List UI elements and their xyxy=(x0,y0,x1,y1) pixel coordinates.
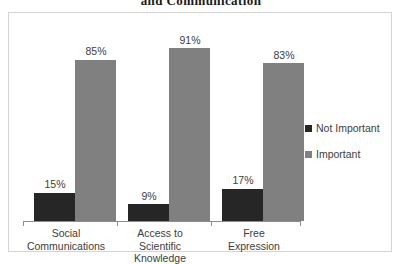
chart-legend: Not Important Important xyxy=(305,123,397,175)
legend-item-important[interactable]: Important xyxy=(305,149,397,160)
legend-swatch-icon xyxy=(305,151,312,158)
bar-value-not-important-access-to-scientific-knowledge: 9% xyxy=(126,190,172,202)
bar-value-not-important-free-expression: 17% xyxy=(220,174,266,186)
bar-value-important-free-expression: 83% xyxy=(261,49,307,61)
legend-label-not-important: Not Important xyxy=(316,123,380,134)
legend-label-important: Important xyxy=(316,149,360,160)
bar-not-important-access-to-scientific-knowledge xyxy=(128,204,169,221)
axis-tick-right xyxy=(300,221,301,226)
chart-frame: 15% 85% 9% 91% 17% 83% Social Communicat… xyxy=(8,12,392,252)
category-label-line: Scientific xyxy=(108,240,212,253)
legend-swatch-icon xyxy=(305,125,312,132)
axis-tick-mid-2 xyxy=(211,221,212,226)
category-label-line: Expression xyxy=(202,240,306,253)
axis-tick-mid-1 xyxy=(117,221,118,226)
bar-not-important-social-communications xyxy=(34,193,75,222)
x-axis-line xyxy=(23,221,301,222)
legend-item-not-important[interactable]: Not Important xyxy=(305,123,397,134)
category-label-access-to-scientific-knowledge: Access to Scientific Knowledge xyxy=(108,227,212,264)
category-label-line: Knowledge xyxy=(108,252,212,264)
category-label-social-communications: Social Communications xyxy=(14,227,118,252)
bar-value-important-social-communications: 85% xyxy=(73,45,119,57)
category-label-line: Social xyxy=(14,227,118,240)
bar-important-social-communications xyxy=(75,60,116,222)
bar-value-important-access-to-scientific-knowledge: 91% xyxy=(167,34,213,46)
axis-tick-left xyxy=(23,221,24,226)
category-label-free-expression: Free Expression xyxy=(202,227,306,252)
chart-title: and Communication xyxy=(0,0,402,9)
bar-not-important-free-expression xyxy=(222,189,263,221)
category-label-line: Access to xyxy=(108,227,212,240)
bar-important-free-expression xyxy=(263,63,304,221)
category-label-line: Communications xyxy=(14,240,118,253)
bar-important-access-to-scientific-knowledge xyxy=(169,48,210,221)
category-label-line: Free xyxy=(202,227,306,240)
bar-value-not-important-social-communications: 15% xyxy=(32,178,78,190)
plot-area: 15% 85% 9% 91% 17% 83% xyxy=(26,31,298,221)
